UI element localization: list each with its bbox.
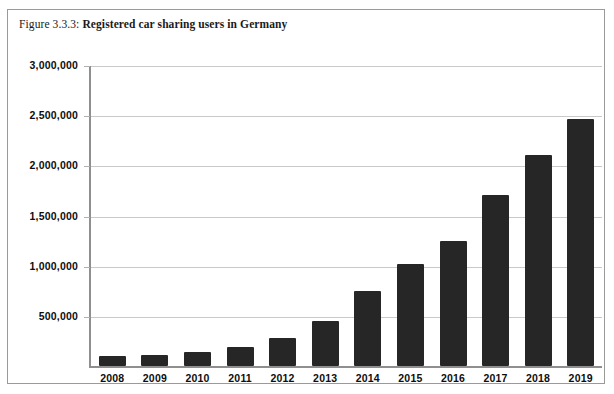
bar bbox=[440, 241, 467, 366]
x-tick-label: 2010 bbox=[176, 372, 219, 384]
y-tick-label: 1,000,000 bbox=[29, 260, 78, 272]
bar bbox=[312, 321, 339, 366]
y-tick-mark bbox=[84, 317, 90, 318]
bar bbox=[269, 338, 296, 366]
y-tick-label: 2,500,000 bbox=[29, 109, 78, 121]
x-tick-label: 2019 bbox=[559, 372, 602, 384]
bar bbox=[184, 352, 211, 366]
bar bbox=[227, 347, 254, 366]
bar-chart: 3,000,0002,500,0002,000,0001,500,0001,00… bbox=[8, 10, 606, 383]
y-tick-mark bbox=[84, 116, 90, 117]
x-tick-label: 2013 bbox=[304, 372, 347, 384]
x-axis-ticks: 2008200920102011201220132014201520162017… bbox=[91, 370, 602, 390]
bar bbox=[567, 119, 594, 366]
bar bbox=[482, 195, 509, 366]
x-tick-label: 2018 bbox=[517, 372, 560, 384]
bar bbox=[99, 356, 126, 366]
y-tick-label: 2,000,000 bbox=[29, 159, 78, 171]
bar bbox=[141, 355, 168, 366]
y-tick-mark bbox=[84, 166, 90, 167]
x-tick-label: 2015 bbox=[389, 372, 432, 384]
x-tick-label: 2008 bbox=[91, 372, 134, 384]
y-tick-label: 500,000 bbox=[39, 310, 78, 322]
bar bbox=[397, 264, 424, 366]
bar bbox=[525, 155, 552, 366]
y-tick-label: 1,500,000 bbox=[29, 210, 78, 222]
x-tick-label: 2012 bbox=[261, 372, 304, 384]
bar-series bbox=[91, 66, 602, 367]
y-tick-mark bbox=[84, 217, 90, 218]
y-tick-mark bbox=[84, 66, 90, 67]
x-tick-label: 2009 bbox=[134, 372, 177, 384]
bar bbox=[354, 291, 381, 366]
x-tick-label: 2016 bbox=[432, 372, 475, 384]
x-tick-label: 2014 bbox=[347, 372, 390, 384]
y-tick-label: 3,000,000 bbox=[29, 59, 78, 71]
plot-area: 3,000,0002,500,0002,000,0001,500,0001,00… bbox=[82, 66, 602, 367]
figure-frame: Figure 3.3.3: Registered car sharing use… bbox=[7, 9, 605, 384]
x-tick-label: 2017 bbox=[474, 372, 517, 384]
y-tick-mark bbox=[84, 267, 90, 268]
x-tick-label: 2011 bbox=[219, 372, 262, 384]
